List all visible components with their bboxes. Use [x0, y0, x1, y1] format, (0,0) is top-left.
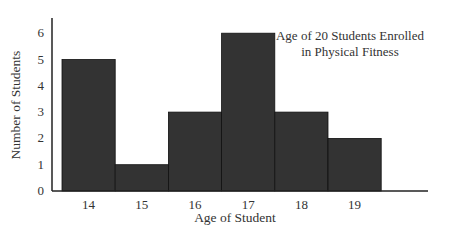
- x-tick-label: 19: [348, 197, 361, 212]
- y-tick-label: 3: [38, 104, 45, 119]
- bar-age-14: [62, 60, 115, 192]
- y-tick-label: 5: [38, 52, 45, 67]
- bar-age-17: [222, 33, 275, 191]
- histogram-chart: 0123456 141516171819 Number of Students …: [0, 0, 450, 239]
- y-tick-label: 0: [38, 183, 45, 198]
- y-tick-label: 4: [38, 78, 45, 93]
- x-axis-title: Age of Student: [194, 210, 276, 225]
- x-tick-label: 15: [135, 197, 148, 212]
- y-axis-title: Number of Students: [8, 51, 23, 160]
- y-tick-label: 2: [38, 130, 45, 145]
- chart-title-line-1: Age of 20 Students Enrolled: [276, 28, 425, 43]
- bar-age-16: [168, 112, 221, 191]
- y-tick-label: 6: [38, 25, 45, 40]
- y-tick-labels: 0123456: [38, 25, 45, 198]
- x-tick-label: 18: [295, 197, 308, 212]
- bar-age-19: [328, 138, 381, 191]
- bar-age-18: [275, 112, 328, 191]
- y-tick-label: 1: [38, 157, 45, 172]
- chart-title-line-2: in Physical Fitness: [301, 44, 399, 59]
- bar-age-15: [115, 165, 168, 191]
- x-tick-label: 14: [82, 197, 96, 212]
